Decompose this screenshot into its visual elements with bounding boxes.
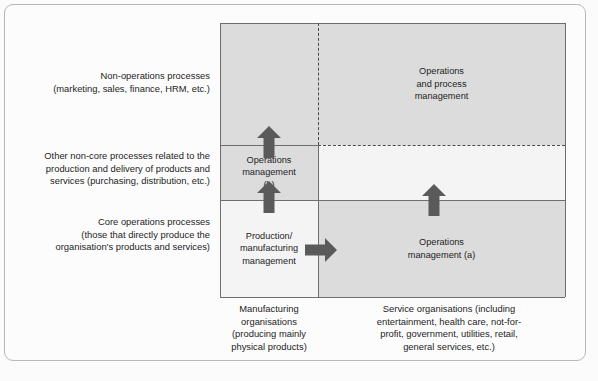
matrix-cell-bottom-left-text: Production/ manufacturing management [236, 230, 302, 267]
cell-text-line: Operations [415, 65, 469, 77]
row-label-line: Other non-core processes related to the [14, 150, 210, 163]
matrix-divider-row1-right-dashed [318, 145, 565, 146]
column-label-line: organisations [214, 316, 324, 329]
cell-text-line: and process [415, 78, 469, 90]
matrix-divider-column-bottom [318, 145, 319, 297]
column-label-line: Manufacturing [214, 303, 324, 316]
column-label-service-organisations: Service organisations (including enterta… [330, 303, 568, 353]
column-label-line: profit, government, utilities, retail, [330, 328, 568, 341]
row-label-line: Core operations processes [14, 216, 210, 229]
row-label-line: Non-operations processes [14, 70, 210, 83]
matrix-cell-top-right: Operations and process management [318, 23, 565, 145]
column-label-line: general services, etc.) [330, 341, 568, 354]
matrix-cell-bottom-right-text: Operations management (a) [404, 236, 479, 261]
cell-text-line: management [242, 166, 296, 178]
figure-root: Non-operations processes (marketing, sal… [0, 0, 598, 381]
matrix-border-bottom [220, 297, 565, 298]
arrow-up-from-operations-a-to-middle-right [422, 184, 446, 216]
matrix: Operations and process management Operat… [220, 23, 565, 297]
arrow-right-from-production-to-operations-a [305, 238, 337, 262]
matrix-cell-bottom-left: Production/ manufacturing management [220, 200, 318, 297]
cell-text-line: Operations [408, 236, 475, 248]
row-label-core-operations-processes: Core operations processes (those that di… [14, 216, 210, 254]
column-label-manufacturing-organisations: Manufacturing organisations (producing m… [214, 303, 324, 353]
matrix-border-top [220, 23, 565, 24]
column-label-line: (producing mainly [214, 328, 324, 341]
row-label-non-operations-processes: Non-operations processes (marketing, sal… [14, 70, 210, 95]
matrix-divider-column-top-dashed [318, 23, 319, 145]
matrix-cell-top-right-text: Operations and process management [411, 65, 473, 102]
arrow-up-from-production-to-operations-b [257, 181, 281, 213]
column-label-line: entertainment, health care, not-for- [330, 316, 568, 329]
row-label-other-non-core-processes: Other non-core processes related to the … [14, 150, 210, 188]
cell-text-line: management [240, 255, 298, 267]
row-label-line: production and delivery of products and [14, 163, 210, 176]
cell-text-line: manufacturing [240, 242, 298, 254]
matrix-border-left [220, 23, 221, 297]
row-label-line: organisation's products and services) [14, 241, 210, 254]
arrow-up-from-operations-b-to-non-operations [257, 126, 281, 158]
row-label-line: services (purchasing, distribution, etc.… [14, 175, 210, 188]
cell-text-line: Production/ [240, 230, 298, 242]
row-label-line: (those that directly produce the [14, 229, 210, 242]
cell-text-line: management (a) [408, 249, 475, 261]
matrix-border-right [565, 23, 566, 297]
cell-text-line: management [415, 90, 469, 102]
row-label-line: (marketing, sales, finance, HRM, etc.) [14, 83, 210, 96]
column-label-line: physical products) [214, 341, 324, 354]
column-label-line: Service organisations (including [330, 303, 568, 316]
